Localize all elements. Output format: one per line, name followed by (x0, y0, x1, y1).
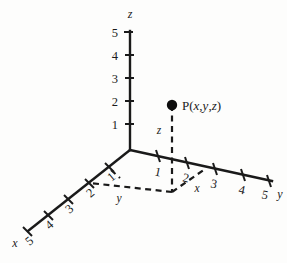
coordinate-system-figure: 5 4 3 2 1 z 1 2 3 4 5 y 1 2 3 4 5 x z y … (0, 0, 287, 263)
x-axis-label: x (11, 236, 18, 250)
z-tick-label-3: 3 (112, 72, 118, 86)
z-axis-group (124, 31, 134, 150)
x-tick-label-5: 5 (23, 234, 37, 249)
y-tick-label-5: 5 (260, 188, 269, 203)
z-tick-label-1: 1 (112, 118, 118, 132)
z-axis-label: z (127, 7, 133, 21)
x-projection-label: x (193, 182, 200, 194)
y-tick-labels-group: 1 2 3 4 5 (153, 165, 269, 203)
z-tick-label-2: 2 (112, 95, 118, 109)
point-p-label-suffix: ) (217, 98, 221, 113)
x-tick-label-4: 4 (43, 217, 57, 232)
point-p-label-prefix: P( (182, 98, 194, 113)
x-tick-labels-group: 1 2 3 4 5 (23, 170, 119, 249)
y-tick-label-1: 1 (153, 165, 162, 180)
z-tick-label-4: 4 (112, 49, 119, 63)
y-axis-label: y (276, 187, 283, 201)
x-tick-label-2: 2 (84, 186, 98, 201)
x-axis-group (23, 150, 130, 236)
x-axis-line (28, 150, 130, 231)
x-tick-label-3: 3 (63, 202, 77, 217)
y-axis-group (130, 150, 272, 187)
y-tick-label-2: 2 (181, 171, 190, 186)
point-p-label: P(x,y,z) (182, 98, 221, 113)
y-tick-label-4: 4 (237, 183, 247, 198)
z-projection-label: z (156, 124, 162, 136)
y-leg-dashed-line (90, 183, 172, 192)
z-tick-label-5: 5 (112, 26, 118, 40)
y-axis-line (130, 150, 272, 181)
y-projection-label: y (115, 192, 122, 205)
z-tick-labels-group: 5 4 3 2 1 (112, 26, 119, 132)
y-tick-label-3: 3 (209, 177, 218, 192)
point-p-marker (167, 100, 177, 110)
